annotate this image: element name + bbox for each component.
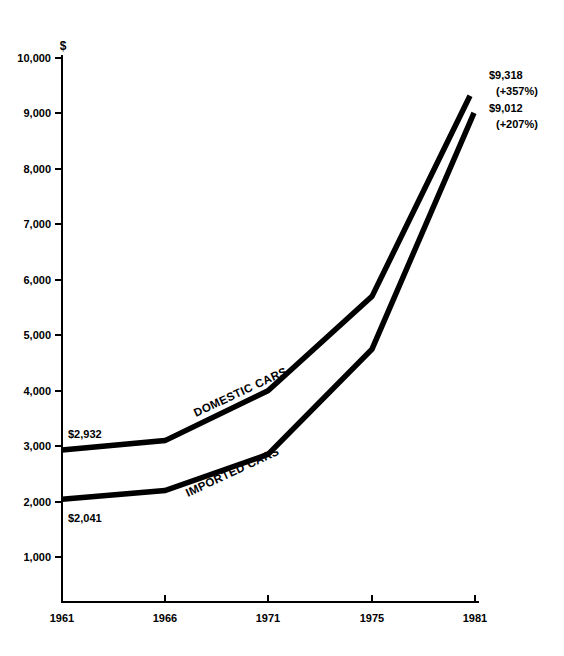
y-tick-label: 10,000 bbox=[17, 52, 51, 64]
start-value-domestic: $2,932 bbox=[68, 428, 102, 440]
y-tick-label: 3,000 bbox=[23, 440, 51, 452]
y-tick-label: 5,000 bbox=[23, 329, 51, 341]
series-label-imported-cars: IMPORTED CARS bbox=[184, 445, 281, 499]
series-label-domestic-cars: DOMESTIC CARS bbox=[192, 365, 289, 419]
x-axis-ticks: 1961 1966 1971 1975 1981 bbox=[50, 595, 487, 624]
x-tick-label: 1975 bbox=[360, 612, 384, 624]
y-axis-ticks: 10,000 9,000 8,000 7,000 6,000 5,000 4,0… bbox=[17, 52, 62, 563]
x-tick-label: 1971 bbox=[256, 612, 280, 624]
line-chart: $ 10,000 9,000 8,000 7,000 6,000 5,000 4… bbox=[0, 0, 564, 656]
y-tick-label: 4,000 bbox=[23, 385, 51, 397]
series-line-domestic-cars bbox=[62, 96, 470, 450]
y-tick-label: 8,000 bbox=[23, 163, 51, 175]
x-tick-label: 1961 bbox=[50, 612, 74, 624]
end-value-imported: $9,012 bbox=[489, 102, 523, 114]
end-percent-domestic: (+357%) bbox=[496, 85, 538, 97]
x-tick-label: 1966 bbox=[153, 612, 177, 624]
chart-container: $ 10,000 9,000 8,000 7,000 6,000 5,000 4… bbox=[0, 0, 564, 656]
y-tick-label: 2,000 bbox=[23, 496, 51, 508]
x-tick-label: 1981 bbox=[463, 612, 487, 624]
start-value-imported: $2,041 bbox=[68, 512, 102, 524]
y-axis-unit-label: $ bbox=[60, 39, 67, 53]
end-percent-imported: (+207%) bbox=[496, 118, 538, 130]
y-tick-label: 6,000 bbox=[23, 274, 51, 286]
y-tick-label: 7,000 bbox=[23, 218, 51, 230]
series-line-imported-cars bbox=[62, 113, 474, 500]
end-value-domestic: $9,318 bbox=[489, 69, 523, 81]
y-tick-label: 9,000 bbox=[23, 107, 51, 119]
y-tick-label: 1,000 bbox=[23, 551, 51, 563]
